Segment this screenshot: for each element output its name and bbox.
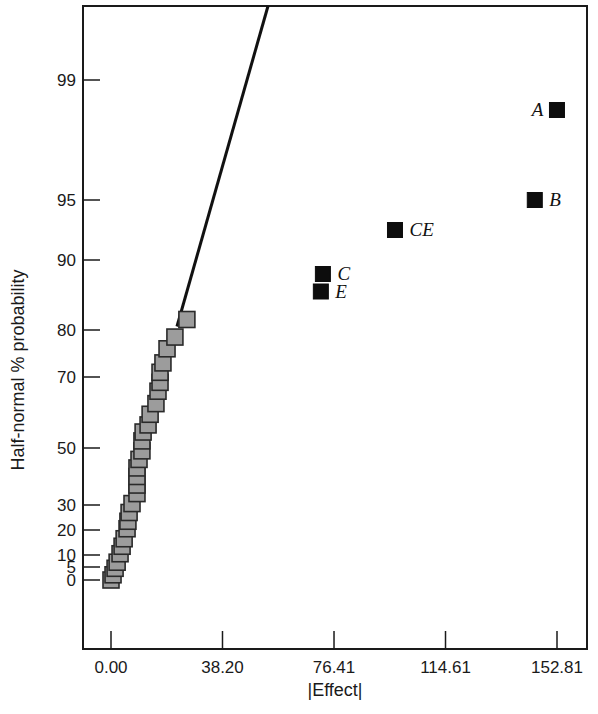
- data-point-c: [315, 267, 330, 282]
- reference-line: [177, 6, 268, 327]
- x-axis-title: |Effect|: [307, 680, 362, 700]
- y-tick-label: 70: [57, 368, 76, 387]
- y-tick-label: 30: [57, 496, 76, 515]
- significant-effects-series: ABCECE: [313, 99, 564, 302]
- insignificant-effects-series: [103, 312, 195, 589]
- x-tick-label: 76.41: [313, 658, 356, 677]
- y-tick-label: 99: [57, 71, 76, 90]
- y-axis-title: Half-normal % probability: [8, 269, 28, 470]
- x-tick-label: 114.61: [420, 658, 471, 677]
- y-axis-ticks: 05102030507080909599: [57, 71, 100, 590]
- plot-frame: [83, 6, 587, 649]
- x-tick-label: 152.81: [531, 658, 583, 677]
- x-axis-ticks: 0.0038.2076.41114.61152.81: [94, 631, 583, 677]
- data-point-e: [313, 284, 328, 299]
- y-tick-label: 20: [57, 521, 76, 540]
- point-label-a: A: [530, 99, 544, 120]
- y-tick-label: 95: [57, 191, 76, 210]
- y-tick-label: 10: [57, 546, 76, 565]
- data-point-gray-square: [167, 329, 183, 345]
- point-label-b: B: [549, 189, 561, 210]
- data-point-ce: [387, 223, 402, 238]
- point-label-e: E: [334, 281, 347, 302]
- y-tick-label: 90: [57, 251, 76, 270]
- data-point-b: [527, 193, 542, 208]
- point-label-ce: CE: [409, 219, 434, 240]
- data-point-a: [549, 103, 564, 118]
- data-point-gray-square: [179, 312, 195, 328]
- half-normal-plot: 05102030507080909599 0.0038.2076.41114.6…: [0, 0, 598, 714]
- y-tick-label: 50: [57, 439, 76, 458]
- x-tick-label: 0.00: [94, 658, 127, 677]
- y-tick-label: 80: [57, 321, 76, 340]
- x-tick-label: 38.20: [201, 658, 244, 677]
